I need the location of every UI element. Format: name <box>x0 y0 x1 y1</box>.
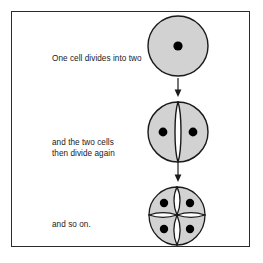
stage-1-caption: One cell divides into two <box>52 54 142 65</box>
stage-3-caption: and so on. <box>52 220 91 231</box>
single-cell-icon <box>146 14 210 82</box>
figure-border-frame: One cell divides into two and the two ce… <box>11 11 250 247</box>
arrow-down-icon <box>172 78 184 102</box>
cell-division-figure: One cell divides into two and the two ce… <box>0 0 263 263</box>
two-cell-icon <box>144 100 212 168</box>
four-cell-icon <box>146 186 208 250</box>
stage-2-caption: and the two cells then divide again <box>52 138 115 159</box>
arrow-down-icon <box>172 163 184 187</box>
